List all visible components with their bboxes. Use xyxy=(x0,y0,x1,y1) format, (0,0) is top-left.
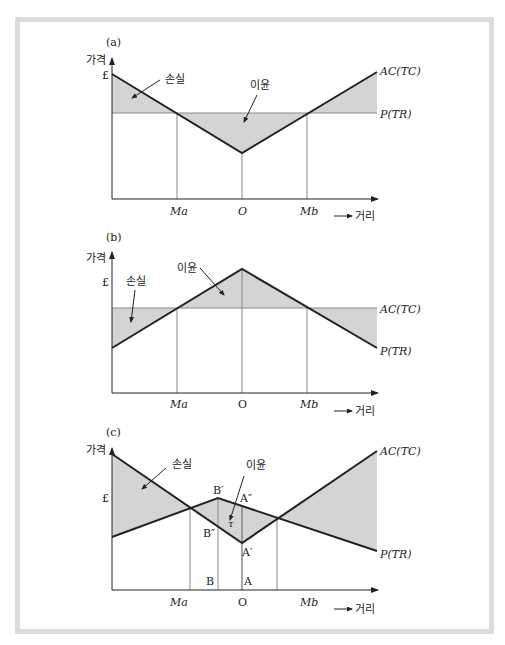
svg-text:A″: A″ xyxy=(239,492,252,505)
svg-text:£: £ xyxy=(102,492,109,505)
svg-text:Ma: Ma xyxy=(169,596,188,609)
svg-text:가격: 가격 xyxy=(86,252,106,265)
svg-text:P(TR): P(TR) xyxy=(379,108,412,121)
svg-text:가격: 가격 xyxy=(86,54,106,67)
svg-text:B″: B″ xyxy=(203,527,215,540)
svg-text:AC(TC): AC(TC) xyxy=(379,303,421,316)
svg-text:Mb: Mb xyxy=(299,596,318,609)
svg-text:A: A xyxy=(243,575,253,588)
svg-text:(c): (c) xyxy=(106,426,121,439)
svg-text:O: O xyxy=(238,398,247,411)
svg-text:£: £ xyxy=(102,69,109,82)
svg-text:이윤: 이윤 xyxy=(246,459,266,472)
svg-text:Ma: Ma xyxy=(169,205,188,218)
svg-text:P(TR): P(TR) xyxy=(379,548,412,561)
svg-text:거리: 거리 xyxy=(355,405,375,418)
svg-text:손실: 손실 xyxy=(165,73,185,86)
svg-text:손실: 손실 xyxy=(126,275,146,288)
svg-text:Ma: Ma xyxy=(169,398,188,411)
svg-text:B: B xyxy=(206,575,214,588)
svg-text:가격: 가격 xyxy=(86,444,106,457)
svg-text:Mb: Mb xyxy=(299,398,318,411)
svg-text:O: O xyxy=(238,205,247,218)
diagram: (a) 가격 £ AC(TC) P(TR) Ma O Mb 거리 손실 이윤 (… xyxy=(0,0,505,645)
svg-text:P(TR): P(TR) xyxy=(379,345,412,358)
svg-text:손실: 손실 xyxy=(172,458,192,471)
svg-text:A′: A′ xyxy=(241,546,253,559)
svg-text:AC(TC): AC(TC) xyxy=(379,445,421,458)
svg-text:O: O xyxy=(238,596,247,609)
svg-text:이윤: 이윤 xyxy=(177,262,197,275)
panel-a: (a) 가격 £ AC(TC) P(TR) Ma O Mb 거리 손실 이윤 xyxy=(86,36,421,223)
svg-text:τ: τ xyxy=(228,518,234,529)
svg-text:(b): (b) xyxy=(106,231,122,244)
svg-text:AC(TC): AC(TC) xyxy=(379,65,421,78)
panel-a-label: (a) xyxy=(106,36,121,49)
svg-text:B′: B′ xyxy=(213,484,224,497)
panel-b: (b) 가격 £ AC(TC) P(TR) Ma O Mb 거리 손실 이윤 xyxy=(86,231,421,418)
svg-text:Mb: Mb xyxy=(299,205,318,218)
svg-text:£: £ xyxy=(102,276,109,289)
svg-text:거리: 거리 xyxy=(355,210,375,223)
panel-c: (c) 가격 £ AC(TC) P(TR) Ma O Mb 거리 손실 이윤 B… xyxy=(86,426,421,616)
svg-text:거리: 거리 xyxy=(355,603,375,616)
svg-text:이윤: 이윤 xyxy=(250,79,270,92)
